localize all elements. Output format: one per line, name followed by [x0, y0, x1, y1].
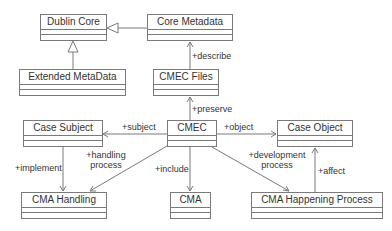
class-name: CMEC: [168, 121, 216, 136]
label-handling-line2: process: [86, 160, 126, 170]
class-name: CMA Happening Process: [252, 193, 382, 208]
label-describe: +describe: [192, 51, 231, 61]
class-name: Extended MetaData: [20, 70, 125, 85]
class-operations: [278, 141, 352, 145]
class-cmec[interactable]: CMEC: [167, 120, 217, 147]
class-operations: [171, 213, 210, 217]
label-development-line2: process: [246, 160, 308, 170]
label-affect: +affect: [318, 166, 345, 176]
class-case-subject[interactable]: Case Subject: [23, 120, 103, 147]
class-operations: [24, 141, 102, 145]
label-development-line1: +development: [246, 150, 308, 160]
label-preserve: +preserve: [192, 104, 232, 114]
class-core-metadata[interactable]: Core Metadata: [147, 14, 233, 41]
class-cmec-files[interactable]: CMEC Files: [153, 69, 219, 96]
class-name: Core Metadata: [148, 15, 232, 30]
label-implement: +implement: [15, 163, 62, 173]
class-cma-handling[interactable]: CMA Handling: [21, 192, 107, 219]
label-include: +include: [155, 164, 189, 174]
class-operations: [148, 35, 232, 39]
class-operations: [41, 35, 106, 39]
label-handling-process: +handling process: [86, 150, 126, 170]
label-development-process: +development process: [246, 150, 308, 170]
class-operations: [20, 90, 125, 94]
class-name: CMEC Files: [154, 70, 218, 85]
class-name: Dublin Core: [41, 15, 106, 30]
class-operations: [252, 213, 382, 217]
class-name: CMA Handling: [22, 193, 106, 208]
class-name: CMA: [171, 193, 210, 208]
class-cma-happening-process[interactable]: CMA Happening Process: [251, 192, 383, 219]
label-object: +object: [224, 122, 253, 132]
class-name: Case Subject: [24, 121, 102, 136]
class-operations: [154, 90, 218, 94]
class-case-object[interactable]: Case Object: [277, 120, 353, 147]
class-cma[interactable]: CMA: [170, 192, 211, 219]
class-extended-metadata[interactable]: Extended MetaData: [19, 69, 126, 96]
class-operations: [168, 141, 216, 145]
class-operations: [22, 213, 106, 217]
class-name: Case Object: [278, 121, 352, 136]
label-handling-line1: +handling: [86, 150, 126, 160]
class-dublin-core[interactable]: Dublin Core: [40, 14, 107, 41]
label-subject: +subject: [122, 122, 156, 132]
